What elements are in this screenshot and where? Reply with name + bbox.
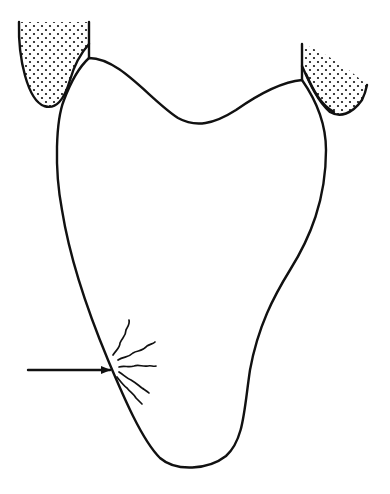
tooth-outline — [57, 58, 326, 468]
right-gum-tissue — [302, 44, 367, 115]
left-gum-tissue — [19, 22, 89, 107]
tooth-diagram — [0, 0, 390, 494]
lesion-cracks — [113, 320, 156, 404]
diagram-canvas: tooth-outline-with-lesion — [0, 0, 390, 494]
